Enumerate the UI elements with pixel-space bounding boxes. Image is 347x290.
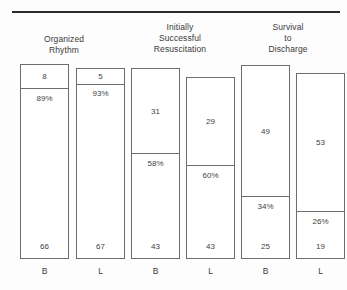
bar-organized-rhythm-l: 5 93% 67 xyxy=(76,68,125,259)
top-horizontal-rule xyxy=(12,11,340,13)
bar-initially-successful-resuscitation-l: 29 60% 43 xyxy=(186,77,235,259)
axis-label-bar-4: L xyxy=(186,266,235,276)
segment-bottom-value: 25 xyxy=(242,242,289,251)
axis-label-bar-2: L xyxy=(76,266,125,276)
bar-survival-to-discharge-b: 49 34% 25 xyxy=(241,65,290,259)
segment-percent-label: 34% xyxy=(242,202,289,211)
axis-label-bar-5: B xyxy=(241,266,290,276)
bar-segment-top: 5 xyxy=(77,69,124,85)
segment-percent-label: 89% xyxy=(21,94,68,103)
axis-label-bar-1: B xyxy=(20,266,69,276)
bar-segment-top: 31 xyxy=(132,69,179,154)
segment-percent-label: 60% xyxy=(187,171,234,180)
segment-bottom-value: 43 xyxy=(132,242,179,251)
segment-top-value: 49 xyxy=(261,127,270,136)
segment-top-value: 29 xyxy=(206,117,215,126)
bar-segment-top: 53 xyxy=(297,74,344,212)
axis-label-bar-6: L xyxy=(296,266,345,276)
segment-bottom-value: 43 xyxy=(187,242,234,251)
segment-top-value: 31 xyxy=(151,107,160,116)
segment-top-value: 5 xyxy=(98,72,102,81)
bar-survival-to-discharge-l: 53 26% 19 xyxy=(296,73,345,259)
segment-top-value: 8 xyxy=(42,72,46,81)
segment-top-value: 53 xyxy=(316,138,325,147)
bar-initially-successful-resuscitation-b: 31 58% 43 xyxy=(131,68,180,259)
group-title-initially-successful-resuscitation: Initially Successful Resuscitation xyxy=(125,22,235,55)
bar-segment-top: 8 xyxy=(21,65,68,89)
segment-bottom-value: 19 xyxy=(297,242,344,251)
segment-percent-label: 26% xyxy=(297,217,344,226)
group-title-organized-rhythm: Organized Rhythm xyxy=(14,34,114,56)
segment-percent-label: 58% xyxy=(132,159,179,168)
segment-bottom-value: 66 xyxy=(21,242,68,251)
figure-container: Organized Rhythm Initially Successful Re… xyxy=(0,0,347,290)
axis-label-bar-3: B xyxy=(131,266,180,276)
bar-organized-rhythm-b: 8 89% 66 xyxy=(20,64,69,259)
group-title-survival-to-discharge: Survival to Discharge xyxy=(238,22,338,55)
segment-bottom-value: 67 xyxy=(77,242,124,251)
segment-percent-label: 93% xyxy=(77,89,124,98)
bar-segment-top: 29 xyxy=(187,78,234,166)
bar-segment-top: 49 xyxy=(242,66,289,197)
